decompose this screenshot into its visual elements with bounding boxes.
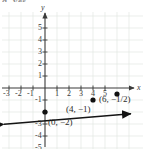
grid-lines-vertical (9, 12, 129, 149)
y-tick-label-neg4: -4 (35, 132, 42, 140)
x-tick-label-neg1: -1 (27, 90, 34, 98)
y-tick-label-5: 5 (38, 24, 42, 32)
point-label-4-neg1: (4, −1) (66, 105, 91, 114)
x-tick-label-2: 2 (67, 90, 71, 98)
x-tick-label-3: 3 (79, 90, 83, 98)
x-tick-label-neg3: -3 (3, 90, 10, 98)
point-label-0-neg2: (0, −2) (48, 118, 73, 127)
x-tick-label-4: 4 (91, 90, 95, 98)
y-tick-label-4: 4 (38, 36, 42, 44)
x-axis-label: x (137, 84, 141, 92)
coordinate-plane-figure: d. yes (0, 0, 145, 149)
data-point-4-neg1 (90, 97, 95, 102)
data-point-0-neg2 (42, 109, 47, 114)
y-axis-label: y (41, 4, 45, 12)
x-tick-label-1: 1 (55, 90, 59, 98)
y-tick-label-neg5: -5 (35, 144, 42, 149)
y-tick-label-neg3: -3 (35, 120, 42, 128)
y-tick-label-1: 1 (38, 72, 42, 80)
x-tick-label-neg2: -2 (15, 90, 22, 98)
point-label-6-neg-half: (6, −1/2) (99, 95, 131, 104)
y-tick-label-neg1: -1 (35, 96, 42, 104)
y-tick-label-2: 2 (38, 60, 42, 68)
y-tick-label-3: 3 (38, 48, 42, 56)
grid-lines-horizontal (2, 16, 143, 148)
